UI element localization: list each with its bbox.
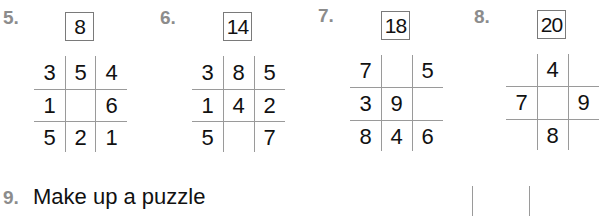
grid-cell: 4: [223, 90, 254, 122]
grid-cell: [381, 55, 412, 87]
grid-cell: 5: [254, 57, 285, 89]
target-sum-box: 20: [537, 10, 566, 39]
grid-cell: 7: [254, 122, 285, 154]
target-sum-box: 14: [223, 12, 252, 41]
grid-cell: 2: [65, 122, 96, 154]
number-grid: 4 7 9 8: [506, 54, 599, 150]
question-number: 7.: [318, 6, 334, 25]
grid-cell: 3: [350, 88, 381, 120]
grid-cell: 5: [34, 122, 65, 154]
question-number: 9.: [3, 188, 19, 207]
grid-cell: 3: [192, 57, 223, 89]
grid-cell: 3: [34, 57, 65, 89]
grid-cell: 4: [537, 54, 568, 86]
grid-cell: 8: [537, 120, 568, 152]
target-sum-box: 8: [65, 12, 94, 41]
number-grid: 3 5 4 1 6 5 2 1: [34, 56, 127, 152]
grid-cell: 7: [506, 87, 537, 119]
grid-cell: 1: [96, 122, 127, 154]
grid-cell: 1: [192, 90, 223, 122]
grid-cell: [65, 90, 96, 122]
grid-cell: [537, 87, 568, 119]
number-grid: 7 5 3 9 8 4 6: [350, 55, 443, 151]
question-number: 8.: [474, 7, 490, 26]
grid-cell: 9: [568, 87, 599, 119]
grid-cell: 4: [381, 121, 412, 153]
grid-cell: [568, 120, 599, 152]
number-grid: 3 8 5 1 4 2 5 7: [192, 56, 285, 152]
grid-cell: 5: [192, 122, 223, 154]
grid-cell: 5: [65, 57, 96, 89]
grid-cell: 1: [34, 90, 65, 122]
grid-cell: 6: [96, 90, 127, 122]
grid-cell: [412, 88, 443, 120]
grid-cell: 2: [254, 90, 285, 122]
question-number: 5.: [3, 8, 19, 27]
target-sum-box: 18: [381, 11, 410, 40]
grid-cell: 8: [350, 121, 381, 153]
grid-cell: 6: [412, 121, 443, 153]
grid-cell: [568, 54, 599, 86]
question-number: 6.: [160, 8, 176, 27]
grid-cell: 4: [96, 57, 127, 89]
grid-cell: [506, 54, 537, 86]
grid-cell: 5: [412, 55, 443, 87]
question-prompt: Make up a puzzle: [33, 186, 205, 208]
grid-cell: [223, 122, 254, 154]
grid-cell: 7: [350, 55, 381, 87]
blank-grid-divider: [529, 186, 530, 216]
blank-grid-divider: [472, 186, 473, 216]
grid-cell: 8: [223, 57, 254, 89]
grid-cell: [506, 120, 537, 152]
grid-cell: 9: [381, 88, 412, 120]
